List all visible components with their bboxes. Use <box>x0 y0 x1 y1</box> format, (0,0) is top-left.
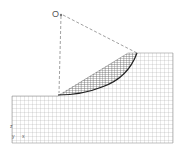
soil-mesh <box>12 53 173 143</box>
slip-circle-center <box>60 14 62 16</box>
mesh-diagram <box>0 0 190 153</box>
axis-label-x: x <box>22 134 25 139</box>
slope-stability-figure: O z y x <box>0 0 190 153</box>
center-label: O <box>52 10 59 19</box>
axis-label-z: z <box>10 124 13 129</box>
axis-label-y: y <box>12 134 15 139</box>
